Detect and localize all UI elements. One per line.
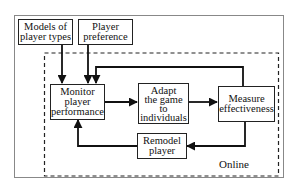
- models-of-player-types-box: Models of player types: [18, 19, 73, 45]
- box-line: individuals: [140, 113, 187, 122]
- edge-measure-remodel: [187, 121, 245, 146]
- monitor-player-performance-box: Monitor player performance: [50, 84, 105, 120]
- adapt-game-box: Adapt the game to individuals: [138, 83, 189, 124]
- measure-effectiveness-box: Measure effectiveness: [218, 86, 275, 122]
- player-preference-box: Player preference: [78, 19, 133, 45]
- remodel-player-box: Remodel player: [137, 133, 187, 159]
- box-line: player: [149, 146, 175, 156]
- online-label: Online: [219, 158, 249, 170]
- box-line: performance: [51, 107, 104, 117]
- box-line: player types: [20, 32, 71, 42]
- edge-remodel-monitor: [78, 120, 137, 146]
- diagram: Models of player types Player preference…: [0, 0, 291, 191]
- box-line: preference: [83, 32, 127, 42]
- box-line: effectiveness: [219, 104, 274, 114]
